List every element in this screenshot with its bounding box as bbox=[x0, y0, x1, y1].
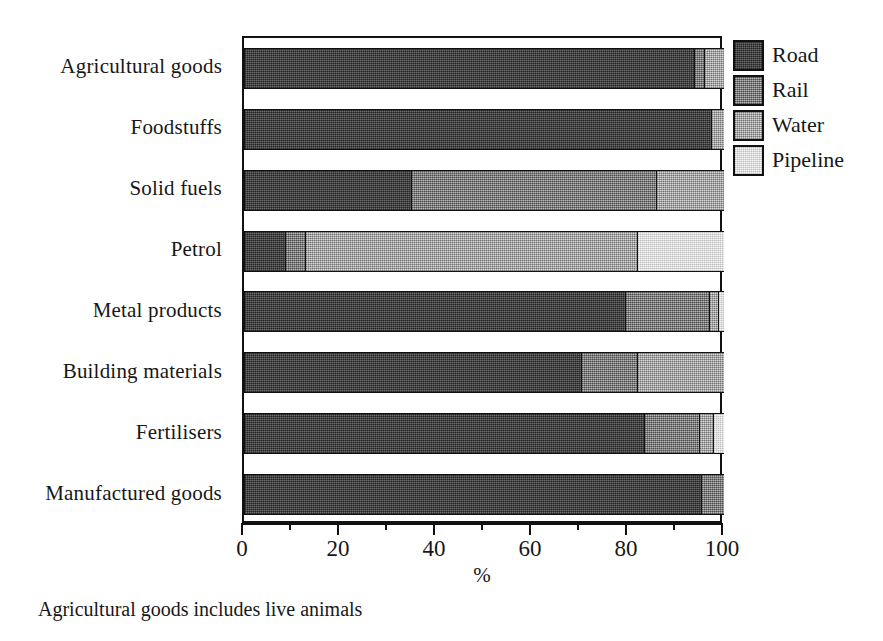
bar-segment-rail bbox=[695, 48, 705, 89]
x-tick-major bbox=[241, 523, 243, 535]
legend-label: Rail bbox=[772, 77, 809, 103]
legend-swatch-pipeline bbox=[733, 145, 764, 176]
legend-swatch-road bbox=[733, 40, 764, 71]
bar-segment-water bbox=[710, 291, 720, 332]
plot-area bbox=[242, 36, 722, 523]
stacked-bar-chart: Agricultural goodsFoodstuffsSolid fuelsP… bbox=[0, 0, 883, 641]
category-label: Solid fuels bbox=[129, 178, 222, 199]
bar-segment-water bbox=[638, 352, 724, 393]
bar-row bbox=[244, 170, 720, 211]
category-label: Fertilisers bbox=[136, 422, 222, 443]
bar-row bbox=[244, 474, 720, 515]
legend-label: Pipeline bbox=[772, 147, 844, 173]
bar-segment-rail bbox=[412, 170, 657, 211]
bar-row bbox=[244, 413, 720, 454]
legend-label: Water bbox=[772, 112, 824, 138]
bar-segment-road bbox=[244, 352, 582, 393]
category-label: Foodstuffs bbox=[131, 117, 222, 138]
bar-segment-water bbox=[712, 109, 724, 150]
bar-segment-rail bbox=[582, 352, 637, 393]
category-label: Metal products bbox=[93, 300, 222, 321]
bar-segment-road bbox=[244, 48, 695, 89]
x-tick-label: 80 bbox=[615, 537, 638, 560]
x-tick-minor bbox=[289, 523, 291, 530]
bar-row bbox=[244, 352, 720, 393]
bar-segment-water bbox=[657, 170, 724, 211]
bar-segment-road bbox=[244, 413, 645, 454]
x-tick-label: 100 bbox=[705, 537, 740, 560]
bar-segment-pipeline bbox=[638, 231, 724, 272]
x-tick-major bbox=[721, 523, 723, 535]
bars-container bbox=[244, 38, 720, 521]
category-label: Agricultural goods bbox=[60, 56, 222, 77]
chart-footnote: Agricultural goods includes live animals bbox=[38, 598, 362, 620]
legend: RoadRailWaterPipeline bbox=[733, 38, 878, 178]
x-tick-label: 60 bbox=[519, 537, 542, 560]
bar-segment-water bbox=[700, 413, 714, 454]
legend-item[interactable]: Water bbox=[733, 108, 878, 143]
x-tick-major bbox=[625, 523, 627, 535]
bar-segment-road bbox=[244, 231, 286, 272]
x-tick-minor bbox=[481, 523, 483, 530]
bar-segment-water bbox=[705, 48, 724, 89]
bar-segment-pipeline bbox=[714, 413, 724, 454]
bar-segment-road bbox=[244, 291, 626, 332]
legend-item[interactable]: Pipeline bbox=[733, 143, 878, 178]
x-tick-minor bbox=[577, 523, 579, 530]
legend-item[interactable]: Rail bbox=[733, 73, 878, 108]
x-tick-label: 20 bbox=[327, 537, 350, 560]
x-tick-major bbox=[337, 523, 339, 535]
bar-segment-rail bbox=[645, 413, 700, 454]
bar-row bbox=[244, 109, 720, 150]
x-tick-minor bbox=[673, 523, 675, 530]
bar-segment-pipeline bbox=[719, 291, 724, 332]
legend-label: Road bbox=[772, 42, 818, 68]
category-label: Petrol bbox=[171, 239, 222, 260]
category-label: Manufactured goods bbox=[45, 483, 222, 504]
bar-segment-road bbox=[244, 474, 702, 515]
bar-segment-road bbox=[244, 109, 712, 150]
bar-segment-water bbox=[306, 231, 637, 272]
bar-segment-road bbox=[244, 170, 412, 211]
bar-segment-rail bbox=[286, 231, 307, 272]
bar-row bbox=[244, 48, 720, 89]
legend-swatch-rail bbox=[733, 75, 764, 106]
x-axis: 020406080100 bbox=[242, 523, 722, 525]
bar-segment-rail bbox=[626, 291, 710, 332]
bar-row bbox=[244, 291, 720, 332]
x-tick-label: 40 bbox=[423, 537, 446, 560]
x-tick-major bbox=[433, 523, 435, 535]
category-label: Building materials bbox=[63, 361, 222, 382]
x-tick-major bbox=[529, 523, 531, 535]
x-axis-title: % bbox=[242, 565, 722, 586]
legend-swatch-water bbox=[733, 110, 764, 141]
x-tick-minor bbox=[385, 523, 387, 530]
legend-item[interactable]: Road bbox=[733, 38, 878, 73]
bar-segment-rail bbox=[702, 474, 724, 515]
bar-row bbox=[244, 231, 720, 272]
category-axis-labels: Agricultural goodsFoodstuffsSolid fuelsP… bbox=[0, 36, 232, 523]
x-tick-label: 0 bbox=[236, 537, 248, 560]
